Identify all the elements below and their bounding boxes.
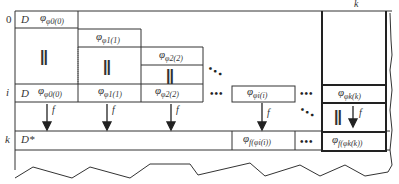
stair-cell-1: φφ1(1) [96,31,120,45]
row0-phi-cell: φφ0(0) [40,12,64,26]
arrow-label-f-k: f [359,107,362,118]
phi-sub: f(φ [249,138,258,147]
row-label-i: i [6,87,9,98]
rowi-cell-k: φφk(k) [338,87,361,101]
rowi-cell-2: φφ2(2) [155,85,179,99]
arrow-label-f-1: f [112,104,115,115]
rowk-dstar-label: D* [21,134,34,145]
equality-marker-col1: || [103,58,110,76]
arrow-label-f-2: f [176,104,179,115]
phi-sub: f(φ [338,139,347,148]
phi-subsub: 1(1) [109,90,122,99]
rowi-cell-i: φφi(i) [247,86,267,100]
phi-subsub: i(i) [258,91,268,100]
rowk-cell-k: φf(φk(k)) [332,134,363,148]
arrow-label-f-i: f [267,107,270,118]
phi-subsub: i(i)) [258,138,270,147]
row-label-k: k [5,134,10,145]
phi-subsub: 0(0) [51,17,64,26]
rowi-ellipsis-2: ••• [300,88,314,99]
phi-subsub: 0(0) [49,90,62,99]
rowi-cell-1: φφ1(1) [98,85,122,99]
phi-subsub: 2(2) [170,54,183,63]
equality-marker-col2: || [166,67,173,85]
arrow-label-f-0: f [52,104,55,115]
phi-subsub: k(k) [349,92,361,101]
equality-marker-col0: || [40,48,47,66]
phi-subsub: 1(1) [107,36,120,45]
equality-marker-colk: || [334,108,341,126]
rowk-cell-i: φf(φi(i)) [243,133,271,147]
stair-cell-2: φφ2(2) [159,49,183,63]
phi-subsub: 2(2) [166,90,179,99]
rowi-cell-0: φφ0(0) [38,85,62,99]
rowi-ellipsis-1: ••• [210,88,224,99]
phi-subsub: k(k)) [347,139,362,148]
column-label-k: k [354,0,358,9]
row-label-0: 0 [6,14,12,25]
rowk-ellipsis: ••• [300,136,314,147]
row0-d-label: D [21,14,29,25]
rowi-d-label: D [21,88,29,99]
